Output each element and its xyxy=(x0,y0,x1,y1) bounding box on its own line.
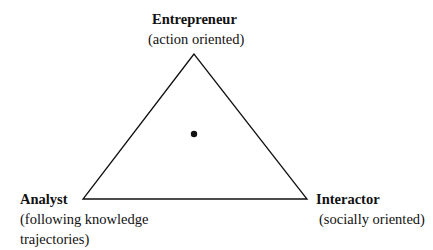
analyst-label: Analyst (following knowledge trajectorie… xyxy=(20,189,148,249)
analyst-title: Analyst xyxy=(20,189,148,209)
interactor-label: Interactor (socially oriented) xyxy=(316,189,425,229)
analyst-subtitle-line1: (following knowledge xyxy=(20,209,148,229)
entrepreneur-label: Entrepreneur (action oriented) xyxy=(152,9,244,49)
center-dot xyxy=(191,131,197,137)
triangle-shape xyxy=(83,54,307,199)
interactor-subtitle: (socially oriented) xyxy=(319,209,425,229)
analyst-subtitle-line2: trajectories) xyxy=(20,229,148,249)
entrepreneur-subtitle: (action oriented) xyxy=(148,29,244,49)
entrepreneur-title: Entrepreneur xyxy=(152,9,244,29)
interactor-title: Interactor xyxy=(316,189,425,209)
